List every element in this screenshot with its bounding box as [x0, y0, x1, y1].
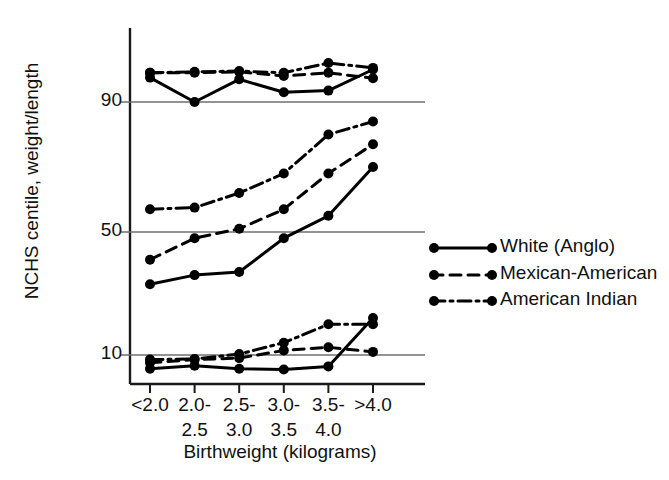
x-axis-title: Birthweight (kilograms) — [130, 441, 430, 463]
x-tick-label-5-line1: >4.0 — [341, 394, 405, 416]
legend-label-mexican-american: Mexican-American — [500, 262, 657, 284]
y-tick-label-90: 90 — [60, 89, 122, 111]
legend-label-american-indian: American Indian — [500, 288, 637, 310]
chart-figure: NCHS centile, weight/length Birthweight … — [0, 0, 669, 480]
y-axis-title: NCHS centile, weight/length — [21, 21, 43, 341]
legend-label-white-anglo: White (Anglo) — [500, 235, 615, 257]
x-tick-label-4-line2: 4.0 — [296, 419, 360, 441]
y-tick-label-50: 50 — [60, 219, 122, 241]
y-tick-label-10: 10 — [60, 342, 122, 364]
